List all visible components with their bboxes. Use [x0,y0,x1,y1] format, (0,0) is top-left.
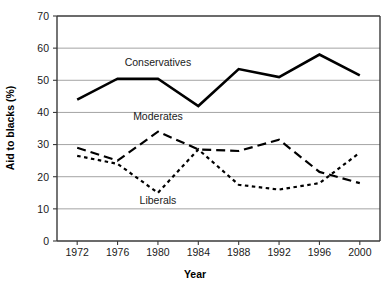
x-tick-label: 1996 [308,246,332,258]
y-tick-label: 10 [37,203,49,215]
series-label-conservatives: Conservatives [125,56,192,68]
x-tick-label: 1980 [146,246,170,258]
y-tick-label: 50 [37,74,49,86]
x-tick-label: 1976 [106,246,130,258]
y-tick-label: 60 [37,42,49,54]
y-tick-label: 0 [43,235,49,247]
x-axis-ticklabels: 19721976198019841988199219962000 [66,246,372,258]
x-tick-label: 1992 [267,246,291,258]
x-tick-label: 2000 [348,246,372,258]
x-tick-label: 1988 [227,246,251,258]
x-tick-label: 1984 [187,246,211,258]
y-tick-label: 30 [37,138,49,150]
line-chart: 010203040506070 197219761980198419881992… [0,0,390,287]
chart-svg: 010203040506070 197219761980198419881992… [0,0,390,287]
y-tick-label: 20 [37,171,49,183]
series-line-moderates [77,132,360,183]
x-axis-title: Year [184,268,206,280]
y-tick-label: 70 [37,10,49,22]
y-axis-ticklabels: 010203040506070 [37,10,49,247]
series-label-moderates: Moderates [133,110,183,122]
y-axis-title: Aid to blacks (%) [4,86,16,171]
series-label-liberals: Liberals [140,194,177,206]
y-tick-label: 40 [37,106,49,118]
y-gridlines [57,48,380,209]
x-tick-label: 1972 [66,246,90,258]
